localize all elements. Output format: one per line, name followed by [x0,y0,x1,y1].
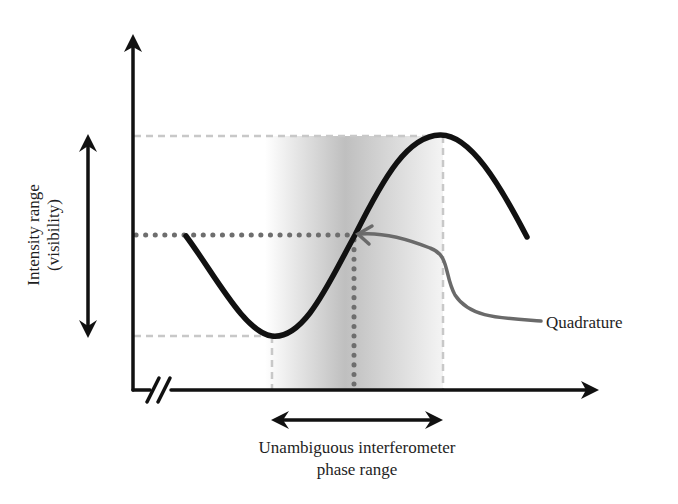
phase-range-label-line1: Unambiguous interferometer [222,437,492,459]
interferometer-diagram [0,0,678,504]
quadrature-label: Quadrature [546,313,622,333]
intensity-range-label-line2: (visibility) [44,135,64,335]
phase-range-double-arrow [271,411,443,429]
axis-break-mark-2 [158,378,170,402]
intensity-range-label: Intensity range (visibility) [24,135,64,335]
intensity-range-label-line1: Intensity range [24,135,44,335]
shaded-phase-region [265,136,443,390]
phase-range-label: Unambiguous interferometer phase range [222,437,492,481]
intensity-range-double-arrow [79,134,97,338]
phase-range-label-line2: phase range [222,459,492,481]
